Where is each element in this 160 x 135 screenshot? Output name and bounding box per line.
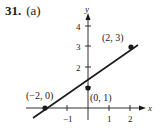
x-axis-arrow-icon — [139, 106, 146, 111]
x-tick-label: 2 — [128, 114, 133, 124]
y-axis-label: y — [84, 4, 89, 14]
point-label: (0, 1) — [90, 92, 112, 104]
x-tick-label: −1 — [63, 114, 73, 124]
x-tick-label: 1 — [107, 114, 112, 124]
point-label: (2, 3) — [102, 32, 124, 44]
y-axis-arrow-icon — [86, 13, 91, 20]
point-label: (−2, 0) — [26, 90, 53, 102]
data-point — [128, 44, 133, 49]
x-axis-label: x — [147, 103, 152, 113]
data-point — [42, 105, 47, 110]
regression-line — [33, 45, 138, 118]
y-tick-label: 4 — [76, 22, 81, 32]
y-tick-label: 3 — [76, 42, 81, 52]
data-point — [85, 85, 90, 90]
y-tick-label: 2 — [76, 63, 81, 73]
scatter-plot: x y −1 1 2 2 3 4 (−2, 0) (0, 1) (2, 3) — [0, 0, 160, 135]
